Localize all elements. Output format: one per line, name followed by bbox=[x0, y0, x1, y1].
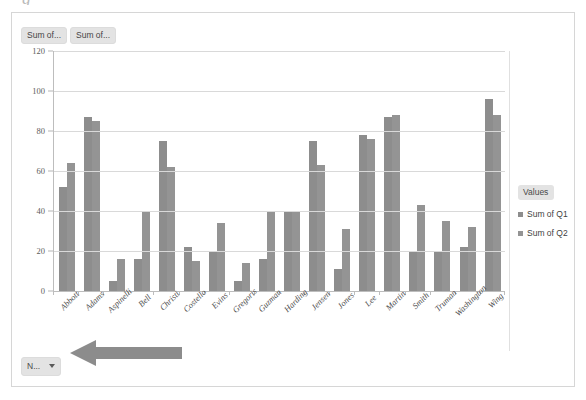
bar[interactable] bbox=[417, 205, 425, 291]
bar[interactable] bbox=[217, 223, 225, 291]
x-label-cell: Lee bbox=[354, 297, 379, 355]
bar[interactable] bbox=[192, 261, 200, 291]
legend-title-values[interactable]: Values bbox=[518, 185, 554, 200]
bar[interactable] bbox=[442, 221, 450, 291]
bar[interactable] bbox=[184, 247, 192, 291]
field-button-sum-of-q2[interactable]: Sum of... bbox=[70, 27, 116, 44]
bar[interactable] bbox=[117, 259, 125, 291]
chevron-down-icon bbox=[49, 364, 55, 368]
bar[interactable] bbox=[159, 141, 167, 291]
x-label-cell: Wing bbox=[480, 297, 505, 355]
bar[interactable] bbox=[134, 259, 142, 291]
bar[interactable] bbox=[359, 135, 367, 291]
x-label-cell: Martin bbox=[379, 297, 404, 355]
bar[interactable] bbox=[92, 121, 100, 291]
x-label-cell: Smith bbox=[405, 297, 430, 355]
y-tick-label: 100 bbox=[32, 86, 45, 96]
legend-separator bbox=[509, 51, 510, 351]
x-label-cell: Harding bbox=[279, 297, 304, 355]
gridline bbox=[54, 91, 505, 92]
legend-label-sum-of-q1: Sum of Q1 bbox=[527, 209, 568, 219]
field-button-name[interactable]: N... bbox=[21, 357, 61, 376]
left-arrow-icon bbox=[70, 340, 182, 366]
y-tick-label: 0 bbox=[41, 286, 45, 296]
x-label-cell: Washington bbox=[455, 297, 480, 355]
x-label-cell: Gregoris bbox=[229, 297, 254, 355]
bar[interactable] bbox=[384, 117, 392, 291]
gridline bbox=[54, 171, 505, 172]
y-tick-label: 60 bbox=[37, 166, 46, 176]
bar[interactable] bbox=[109, 281, 117, 291]
bar[interactable] bbox=[67, 163, 75, 291]
bar[interactable] bbox=[367, 139, 375, 291]
x-label-cell: Jones bbox=[329, 297, 354, 355]
legend-swatch-icon-q2 bbox=[518, 231, 523, 236]
bar[interactable] bbox=[259, 259, 267, 291]
bar[interactable] bbox=[317, 165, 325, 291]
bar[interactable] bbox=[334, 269, 342, 291]
gridline bbox=[54, 131, 505, 132]
y-tick-label: 20 bbox=[37, 246, 46, 256]
bar[interactable] bbox=[468, 227, 476, 291]
bar[interactable] bbox=[493, 115, 501, 291]
bar[interactable] bbox=[434, 251, 442, 291]
bar[interactable] bbox=[309, 141, 317, 291]
plot-area: 020406080100120 AbbottAdamsAspinelliBell… bbox=[21, 51, 505, 354]
value-field-buttons: Sum of... Sum of... bbox=[21, 27, 116, 44]
y-tick-label: 40 bbox=[37, 206, 46, 216]
field-button-name-label: N... bbox=[27, 361, 40, 371]
bar[interactable] bbox=[234, 281, 242, 291]
bar[interactable] bbox=[84, 117, 92, 291]
bar[interactable] bbox=[485, 99, 493, 291]
x-label-cell: Costello bbox=[179, 297, 204, 355]
x-label-cell: Guzman bbox=[254, 297, 279, 355]
legend-item-sum-of-q2: Sum of Q2 bbox=[518, 228, 586, 238]
bar[interactable] bbox=[167, 167, 175, 291]
bar[interactable] bbox=[460, 247, 468, 291]
y-tick-label: 120 bbox=[32, 46, 45, 56]
gridline bbox=[54, 211, 505, 212]
pivot-chart-frame: Sum of... Sum of... 020406080100120 Abbo… bbox=[11, 12, 575, 387]
top-partial-glyph: g bbox=[22, 0, 31, 5]
plot-canvas bbox=[53, 51, 505, 292]
bar[interactable] bbox=[392, 115, 400, 291]
bar[interactable] bbox=[59, 187, 67, 291]
bar[interactable] bbox=[409, 251, 417, 291]
y-axis: 020406080100120 bbox=[21, 51, 53, 291]
x-label-cell: Jensen bbox=[304, 297, 329, 355]
legend: Values Sum of Q1 Sum of Q2 bbox=[518, 181, 586, 238]
x-label-cell: Evins bbox=[204, 297, 229, 355]
bar[interactable] bbox=[209, 251, 217, 291]
gridline bbox=[54, 51, 505, 52]
x-label-cell: Truman bbox=[430, 297, 455, 355]
bar[interactable] bbox=[242, 263, 250, 291]
bar[interactable] bbox=[342, 229, 350, 291]
legend-item-sum-of-q1: Sum of Q1 bbox=[518, 209, 586, 219]
legend-label-sum-of-q2: Sum of Q2 bbox=[527, 228, 568, 238]
field-button-sum-of-q1[interactable]: Sum of... bbox=[21, 27, 67, 44]
legend-swatch-icon-q1 bbox=[518, 212, 523, 217]
gridline bbox=[54, 251, 505, 252]
y-tick-label: 80 bbox=[37, 126, 46, 136]
